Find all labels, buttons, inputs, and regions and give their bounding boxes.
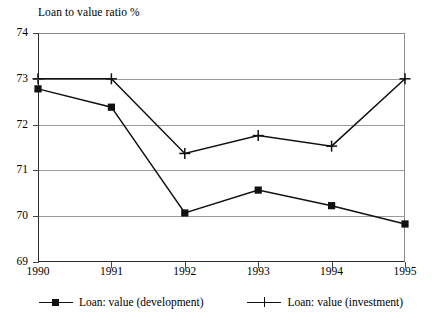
- y-tick-label: 71: [2, 163, 28, 175]
- data-point-marker: [255, 186, 262, 193]
- x-tick-label: 1995: [384, 265, 426, 277]
- x-tick-label: 1991: [90, 265, 132, 277]
- series-line: [38, 79, 405, 154]
- x-tick-label: 1993: [237, 265, 279, 277]
- y-tick-mark: [33, 170, 39, 171]
- y-tick-label: 70: [2, 209, 28, 221]
- y-tick-label: 73: [2, 72, 28, 84]
- chart-legend: Loan: value (development) Loan: value (i…: [0, 296, 442, 308]
- x-tick-label: 1994: [311, 265, 353, 277]
- legend-marker-plus-icon: [247, 296, 281, 308]
- series-layer: [38, 33, 405, 262]
- data-point-marker: [108, 104, 115, 111]
- chart-title: Loan to value ratio %: [38, 6, 140, 18]
- y-tick-label: 72: [2, 118, 28, 130]
- data-point-marker: [34, 85, 41, 92]
- chart-figure: Loan to value ratio % 697071727374 19901…: [0, 0, 442, 324]
- legend-label-development: Loan: value (development): [79, 296, 204, 308]
- data-point-marker: [253, 130, 264, 141]
- y-tick-mark: [33, 216, 39, 217]
- x-tick-label: 1990: [17, 265, 59, 277]
- series-line: [38, 89, 405, 224]
- y-tick-mark: [33, 262, 39, 263]
- x-tick-label: 1992: [164, 265, 206, 277]
- data-point-marker: [401, 220, 408, 227]
- legend-item-investment: Loan: value (investment): [247, 296, 403, 308]
- legend-marker-square-icon: [39, 296, 73, 308]
- y-tick-mark: [33, 33, 39, 34]
- legend-item-development: Loan: value (development): [39, 296, 204, 308]
- plot-area: [38, 33, 405, 262]
- legend-label-investment: Loan: value (investment): [287, 296, 403, 308]
- data-point-marker: [181, 209, 188, 216]
- y-tick-mark: [33, 79, 39, 80]
- y-tick-mark: [33, 125, 39, 126]
- y-tick-label: 74: [2, 26, 28, 38]
- data-point-marker: [328, 202, 335, 209]
